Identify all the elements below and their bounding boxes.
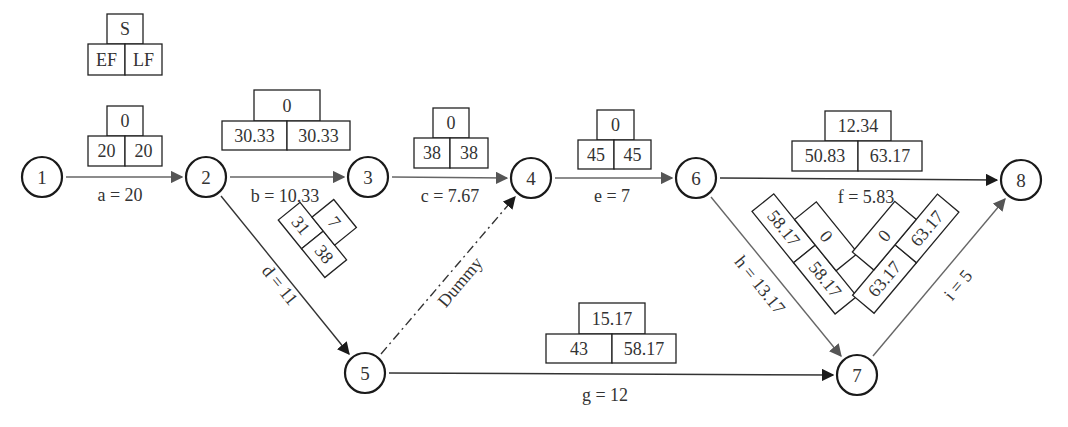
legend-box: S EF LF: [88, 14, 162, 75]
ef-g: 43: [570, 339, 588, 359]
svg-text:6: 6: [691, 168, 701, 189]
label-g: g = 12: [582, 385, 628, 405]
node-4: 4: [511, 158, 551, 198]
legend-lf: LF: [133, 50, 154, 70]
lf-a: 20: [135, 141, 153, 161]
label-d: d = 11: [258, 261, 302, 309]
ef-c: 38: [423, 143, 441, 163]
svg-text:7: 7: [852, 365, 862, 386]
edge-g: [389, 373, 833, 375]
label-f: f = 5.83: [838, 187, 895, 207]
box-a: 0 20 20: [88, 106, 162, 166]
label-c: c = 7.67: [421, 186, 480, 206]
box-b: 0 30.33 30.33: [222, 90, 350, 150]
edge-dummy: [381, 197, 515, 354]
node-1: 1: [22, 157, 62, 197]
svg-text:4: 4: [526, 168, 536, 189]
node-7: 7: [837, 355, 877, 395]
ef-a: 20: [98, 141, 116, 161]
ef-e: 45: [587, 145, 605, 165]
svg-text:5: 5: [360, 363, 370, 384]
svg-text:1: 1: [37, 167, 47, 188]
slack-b: 0: [283, 96, 292, 116]
node-5: 5: [345, 353, 385, 393]
lf-e: 45: [624, 145, 642, 165]
svg-text:3: 3: [363, 167, 373, 188]
lf-f: 63.17: [870, 146, 911, 166]
box-g: 15.17 43 58.17: [546, 303, 676, 363]
node-3: 3: [348, 157, 388, 197]
slack-f: 12.34: [838, 116, 879, 136]
box-c: 0 38 38: [414, 108, 488, 168]
edge-f: [720, 178, 997, 180]
box-e: 0 45 45: [578, 110, 651, 169]
ef-f: 50.83: [805, 146, 846, 166]
label-e: e = 7: [594, 186, 630, 206]
lf-b: 30.33: [298, 126, 339, 146]
node-2: 2: [186, 157, 226, 197]
legend-slack: S: [120, 19, 130, 39]
label-i: i = 5: [940, 266, 977, 304]
label-b: b = 10.33: [251, 186, 320, 206]
box-f: 12.34 50.83 63.17: [792, 111, 922, 171]
slack-c: 0: [447, 113, 456, 133]
slack-a: 0: [121, 111, 130, 131]
activity-network-diagram: S EF LF 0 20 20 0 30.33 30.33: [0, 0, 1068, 427]
slack-g: 15.17: [592, 309, 633, 329]
svg-text:2: 2: [201, 167, 211, 188]
slack-e: 0: [611, 115, 620, 135]
ef-b: 30.33: [234, 126, 275, 146]
lf-g: 58.17: [624, 339, 665, 359]
svg-text:8: 8: [1016, 170, 1026, 191]
label-a: a = 20: [97, 185, 142, 205]
edge-c: [392, 177, 507, 178]
lf-c: 38: [460, 143, 478, 163]
node-6: 6: [676, 158, 716, 198]
label-h: h = 13.17: [731, 252, 790, 318]
legend-ef: EF: [96, 50, 117, 70]
node-8: 8: [1001, 160, 1041, 200]
